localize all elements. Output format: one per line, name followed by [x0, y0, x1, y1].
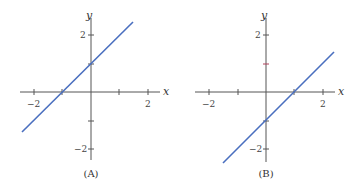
x-tick-label: −2 — [27, 99, 40, 109]
line-series — [223, 52, 334, 163]
x-tick-label: 2 — [320, 99, 326, 109]
plot-b-canvas: −2 2 2 −2 x y — [179, 0, 359, 192]
y-tick-label: 2 — [80, 30, 86, 40]
y-tick-label: −2 — [74, 144, 87, 154]
line-series — [22, 22, 133, 132]
caption-a: (A) — [71, 168, 111, 179]
x-axis-label: x — [338, 85, 345, 98]
x-axis-label: x — [163, 85, 170, 98]
caption-b: (B) — [246, 168, 286, 179]
plot-b: −2 2 2 −2 x y (B) — [179, 0, 359, 192]
y-tick-label: −2 — [249, 144, 262, 154]
plot-a-canvas: −2 2 2 −2 x y — [0, 0, 180, 192]
y-axis-label: y — [260, 9, 268, 22]
plot-a: −2 2 2 −2 x y (A) — [0, 0, 180, 192]
y-tick-label: 2 — [255, 30, 261, 40]
x-tick-label: 2 — [145, 99, 151, 109]
x-tick-label: −2 — [202, 99, 215, 109]
y-axis-label: y — [85, 9, 93, 22]
